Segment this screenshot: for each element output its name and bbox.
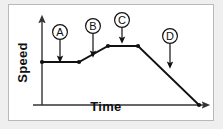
figure-panel: A B C D Speed Time (8, 4, 214, 121)
speed-curve (42, 46, 199, 105)
data-point (77, 60, 81, 64)
callout-label-d: D (166, 30, 174, 42)
data-point (136, 44, 140, 48)
y-axis-label: Speed (15, 37, 30, 89)
data-point (106, 44, 110, 48)
callout-label-b: B (89, 20, 96, 32)
screenshot-root: A B C D Speed Time (0, 0, 223, 129)
callout-label-c: C (118, 14, 126, 26)
x-axis-label: Time (71, 99, 141, 114)
data-point (197, 103, 201, 107)
callout-label-a: A (56, 26, 64, 38)
data-point (40, 60, 44, 64)
